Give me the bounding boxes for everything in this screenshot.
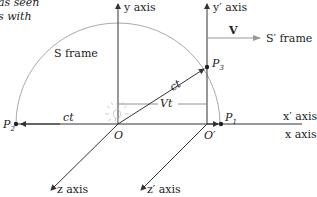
z-prime-axis-line: [141, 124, 207, 190]
velocity-label: V: [229, 25, 238, 36]
y-axis-label: y axis: [124, 2, 156, 13]
p1-label: P1: [225, 112, 237, 126]
p3-label: P3: [212, 58, 224, 72]
p1-subscript: 1: [232, 118, 236, 126]
point-p3: [205, 65, 209, 69]
light-pulse-diagram: as seen s with y axis y′ axis x′ axis x …: [0, 0, 317, 197]
ct-horizontal-label: ct: [63, 112, 74, 123]
s-prime-frame-label: S′ frame: [266, 33, 312, 44]
p2-label: P2: [3, 119, 15, 133]
caption-line-1: as seen: [0, 0, 39, 10]
p3-subscript: 3: [219, 64, 223, 72]
origin-prime-label: O′: [204, 130, 216, 141]
x-axis-label: x axis: [285, 129, 317, 140]
z-axis-line: [51, 124, 118, 190]
diagram-graphics: [0, 0, 317, 197]
origin-label: O: [114, 130, 123, 141]
caption-line-2: s with: [0, 10, 32, 24]
p2-subscript: 2: [10, 125, 14, 133]
s-frame-label: S frame: [54, 48, 98, 59]
z-prime-axis-label: z′ axis: [147, 184, 181, 195]
z-axis-label: z axis: [57, 184, 88, 195]
y-prime-axis-label: y′ axis: [213, 2, 247, 13]
x-prime-axis-label: x′ axis: [283, 111, 317, 122]
vt-label: Vt: [160, 98, 172, 109]
point-p1: [219, 122, 223, 126]
